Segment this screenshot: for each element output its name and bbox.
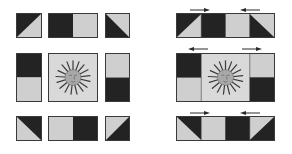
row-1-strip	[176, 13, 275, 38]
rect-bottom-center	[48, 116, 98, 141]
hst-top-right	[105, 13, 130, 38]
sun-block-left	[48, 53, 98, 102]
sun-icon	[49, 54, 97, 101]
arrow-right-icon	[242, 46, 262, 52]
column-middle-right	[105, 53, 130, 102]
hst-bottom-left	[16, 116, 42, 141]
arrow-left-icon	[188, 46, 208, 52]
row-2-strip	[176, 53, 275, 102]
hst-bottom-right	[105, 116, 130, 141]
hst-top-left	[16, 13, 42, 38]
rect-top-center	[48, 13, 98, 38]
column-middle-left	[16, 53, 42, 102]
row-3-strip	[176, 116, 275, 141]
